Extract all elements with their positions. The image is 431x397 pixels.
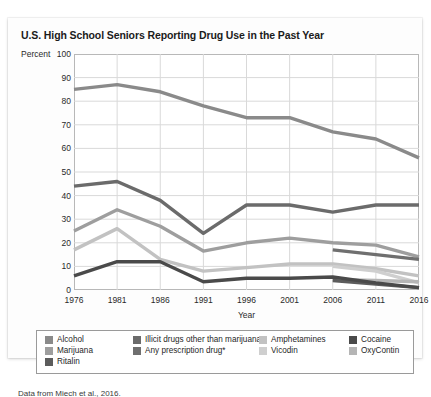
legend-item[interactable]: Vicodin — [259, 346, 298, 355]
legend-item[interactable]: Alcohol — [45, 335, 84, 344]
legend-swatch-icon — [45, 358, 53, 366]
y-tick-label: 70 — [62, 120, 71, 130]
legend-item-label: Ritalin — [57, 357, 80, 366]
page-title: U.S. High School Seniors Reporting Drug … — [21, 29, 324, 41]
legend-item[interactable]: Any prescription drug* — [133, 346, 226, 355]
y-tick-label: 90 — [62, 73, 71, 83]
source-note: Data from Miech et al., 2016. — [18, 389, 121, 397]
x-tick-label: 2016 — [410, 295, 429, 305]
legend-swatch-icon — [349, 336, 357, 344]
x-tick-label: 1981 — [108, 295, 127, 305]
legend-item-label: Vicodin — [271, 346, 298, 355]
legend-item-label: Any prescription drug* — [145, 346, 226, 355]
x-tick-label: 2001 — [280, 295, 299, 305]
x-tick-label: 1991 — [194, 295, 213, 305]
legend-item[interactable]: Ritalin — [45, 357, 80, 366]
legend-swatch-icon — [45, 336, 53, 344]
legend-item-label: Amphetamines — [271, 335, 326, 344]
y-tick-label: 80 — [62, 96, 71, 106]
x-tick-label: 1996 — [237, 295, 256, 305]
series-lines — [74, 54, 419, 290]
y-tick-label: 100 — [57, 49, 71, 59]
x-tick-label: 1986 — [151, 295, 170, 305]
legend-item-label: Marijuana — [57, 346, 93, 355]
legend-item-label: OxyContin — [361, 346, 399, 355]
y-axis-tick-labels: 0102030405060708090100 — [42, 54, 71, 290]
legend-swatch-icon — [349, 347, 357, 355]
x-axis-title: Year — [74, 310, 419, 320]
legend-swatch-icon — [45, 347, 53, 355]
x-tick-label: 1976 — [65, 295, 84, 305]
legend-item[interactable]: Amphetamines — [259, 335, 326, 344]
legend-item[interactable]: OxyContin — [349, 346, 399, 355]
x-tick-label: 2006 — [323, 295, 342, 305]
legend-item[interactable]: Illicit drugs other than marijuana — [133, 335, 261, 344]
y-tick-label: 40 — [62, 191, 71, 201]
x-axis-tick-labels: 197619811986199119962001200620112016 — [74, 295, 419, 307]
y-tick-label: 30 — [62, 214, 71, 224]
legend-swatch-icon — [133, 347, 141, 355]
legend-item-label: Illicit drugs other than marijuana — [145, 335, 261, 344]
series-line — [74, 85, 419, 158]
legend-item[interactable]: Marijuana — [45, 346, 93, 355]
legend-swatch-icon — [133, 336, 141, 344]
screenshot-root: U.S. High School Seniors Reporting Drug … — [0, 0, 431, 397]
y-tick-label: 60 — [62, 143, 71, 153]
legend-item-label: Alcohol — [57, 335, 84, 344]
chart-legend: AlcoholMarijuanaRitalinIllicit drugs oth… — [36, 330, 414, 374]
legend-swatch-icon — [259, 347, 267, 355]
plot-area — [74, 54, 419, 290]
y-tick-label: 20 — [62, 238, 71, 248]
x-tick-label: 2011 — [367, 295, 385, 305]
figure-card: U.S. High School Seniors Reporting Drug … — [8, 18, 422, 358]
y-tick-label: 10 — [62, 261, 71, 271]
y-tick-label: 0 — [66, 285, 71, 295]
y-tick-label: 50 — [62, 167, 71, 177]
series-line — [74, 181, 419, 233]
legend-item[interactable]: Cocaine — [349, 335, 391, 344]
legend-swatch-icon — [259, 336, 267, 344]
legend-item-label: Cocaine — [361, 335, 391, 344]
